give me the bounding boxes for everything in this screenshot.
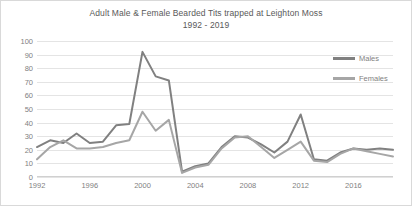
x-axis-tick-label: 1996 xyxy=(81,181,98,190)
x-axis-tick-label: 2012 xyxy=(292,181,309,190)
x-axis-tick-label: 2004 xyxy=(187,181,204,190)
y-axis-tick-label: 50 xyxy=(25,105,33,114)
legend-swatch-icon xyxy=(333,77,355,80)
gridline xyxy=(37,177,393,178)
y-axis-tick-label: 90 xyxy=(25,50,33,59)
chart-title: Adult Male & Female Bearded Tits trapped… xyxy=(1,7,411,31)
y-axis-tick-label: 10 xyxy=(25,159,33,168)
chart-container: Adult Male & Female Bearded Tits trapped… xyxy=(0,0,412,206)
chart-legend: MalesFemales xyxy=(333,51,409,91)
y-axis-tick-label: 20 xyxy=(25,145,33,154)
legend-swatch-icon xyxy=(333,57,355,60)
x-axis-tick-label: 1992 xyxy=(29,181,46,190)
y-axis-tick-label: 100 xyxy=(20,37,33,46)
y-axis-tick-label: 40 xyxy=(25,118,33,127)
legend-item-females[interactable]: Females xyxy=(333,71,409,86)
y-axis-tick-label: 30 xyxy=(25,132,33,141)
x-axis-tick-label: 2016 xyxy=(345,181,362,190)
legend-item-males[interactable]: Males xyxy=(333,51,409,66)
legend-item-label: Males xyxy=(359,54,379,63)
chart-title-main: Adult Male & Female Bearded Tits trapped… xyxy=(90,8,323,18)
legend-item-label: Females xyxy=(359,74,388,83)
y-axis-tick-label: 60 xyxy=(25,91,33,100)
y-axis-tick-label: 70 xyxy=(25,77,33,86)
x-axis-tick-label: 2000 xyxy=(134,181,151,190)
x-axis-tick-label: 2008 xyxy=(240,181,257,190)
chart-title-subtitle: 1992 - 2019 xyxy=(1,19,411,31)
y-axis-tick-label: 80 xyxy=(25,64,33,73)
